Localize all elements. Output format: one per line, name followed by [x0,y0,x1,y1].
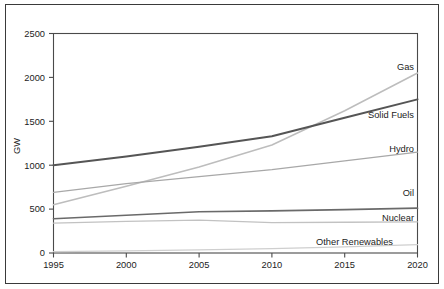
x-label-1995: 1995 [43,260,64,270]
y-label-2000: 2000 [24,73,45,83]
y-axis-ticks [49,34,54,254]
y-label-1000: 1000 [24,161,45,171]
y-label-0: 0 [40,248,45,258]
y-label-2500: 2500 [24,29,45,39]
series-label-nuclear: Nuclear [382,213,414,223]
series-line-nuclear [54,220,418,223]
series-label-hydro: Hydro [389,144,414,154]
y-label-1500: 1500 [24,117,45,127]
x-label-2000: 2000 [116,260,137,270]
y-axis-tick-labels: 2500 2000 1500 1000 500 0 [24,29,45,258]
series-label-oil: Oil [403,188,414,198]
y-axis-title: GW [12,138,22,154]
chart-plot-area: 2500 2000 1500 1000 500 0 GW 1995 2000 2… [0,0,444,289]
series-lines [54,73,418,252]
x-label-2005: 2005 [189,260,210,270]
series-label-other-renewables: Other Renewables [316,237,393,247]
series-line-gas [54,73,418,205]
line-chart-figure: 2500 2000 1500 1000 500 0 GW 1995 2000 2… [0,0,444,289]
x-label-2010: 2010 [262,260,283,270]
x-label-2015: 2015 [334,260,355,270]
x-label-2020: 2020 [407,260,428,270]
y-label-500: 500 [29,204,45,214]
x-axis-tick-labels: 1995 2000 2005 2010 2015 2020 [43,260,428,270]
series-label-solid-fuels: Solid Fuels [368,110,414,120]
plot-frame [54,34,418,254]
series-line-oil [54,208,418,219]
series-label-gas: Gas [397,62,414,72]
x-axis-ticks [54,253,418,258]
